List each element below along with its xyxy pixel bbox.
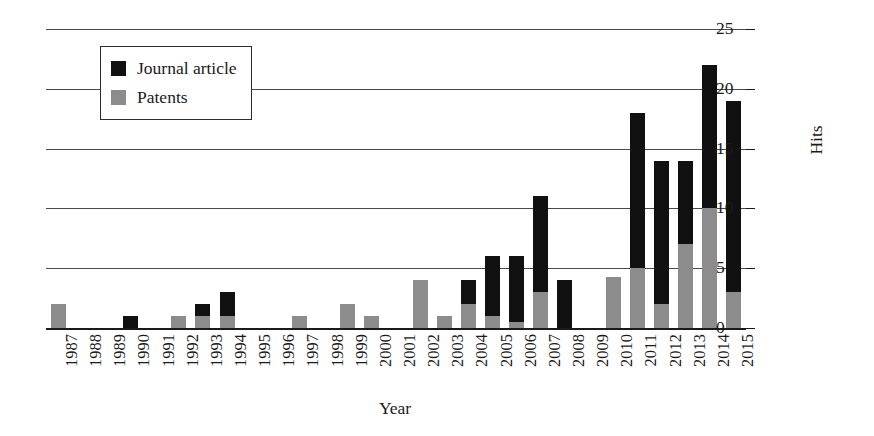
bar-segment-patents-1999 xyxy=(340,304,355,328)
bar-group-1996 xyxy=(268,29,283,328)
x-tick-label-2008: 2008 xyxy=(571,334,588,367)
x-tick-label-1989: 1989 xyxy=(112,334,129,367)
bar-group-2002 xyxy=(413,29,428,328)
y-tick-mark-15 xyxy=(746,149,755,150)
bar-segment-journal-article-1994 xyxy=(220,292,235,316)
y-tick-label-25: 25 xyxy=(716,20,734,38)
bar-segment-patents-2000 xyxy=(364,316,379,328)
bar-segment-patents-2004 xyxy=(461,304,476,328)
x-tick-label-2013: 2013 xyxy=(692,334,709,367)
x-tick-label-1987: 1987 xyxy=(64,334,81,367)
x-axis-tick-labels: 1987198819891990199119921993199419951996… xyxy=(46,328,746,390)
legend-label-patents: Patents xyxy=(137,89,188,107)
bar-segment-journal-article-2005 xyxy=(485,256,500,316)
x-tick-label-2003: 2003 xyxy=(450,334,467,367)
x-tick-label-2002: 2002 xyxy=(426,334,443,367)
x-tick-label-2010: 2010 xyxy=(619,334,636,367)
bar-segment-patents-2012 xyxy=(654,304,669,328)
bar-group-2000 xyxy=(364,29,379,328)
bar-group-2015 xyxy=(726,29,741,328)
bar-group-2003 xyxy=(437,29,452,328)
bar-segment-patents-2007 xyxy=(533,292,548,328)
legend-item-journal-article: Journal article xyxy=(111,54,237,83)
x-tick-label-1991: 1991 xyxy=(161,334,178,367)
legend-label-journal-article: Journal article xyxy=(137,60,237,78)
bar-group-2009 xyxy=(582,29,597,328)
x-tick-label-1998: 1998 xyxy=(330,334,347,367)
bar-segment-patents-1993 xyxy=(195,316,210,328)
y-tick-label-15: 15 xyxy=(716,140,734,158)
x-tick-label-1999: 1999 xyxy=(354,334,371,367)
bar-segment-patents-2015 xyxy=(726,292,741,328)
bar-group-1988 xyxy=(75,29,90,328)
y-tick-mark-0 xyxy=(746,328,755,329)
bar-group-2007 xyxy=(533,29,548,328)
bar-group-1998 xyxy=(316,29,331,328)
bar-group-2010 xyxy=(606,29,621,328)
x-tick-label-1988: 1988 xyxy=(88,334,105,367)
x-tick-label-1990: 1990 xyxy=(136,334,153,367)
bar-group-2012 xyxy=(654,29,669,328)
y-tick-mark-10 xyxy=(746,208,755,209)
bar-group-1997 xyxy=(292,29,307,328)
bar-segment-journal-article-2015 xyxy=(726,101,741,292)
y-tick-label-20: 20 xyxy=(716,80,734,98)
bar-segment-patents-2011 xyxy=(630,268,645,328)
y-tick-label-5: 5 xyxy=(716,259,725,277)
x-tick-label-1994: 1994 xyxy=(233,334,250,367)
x-tick-label-1995: 1995 xyxy=(257,334,274,367)
bar-segment-journal-article-1990 xyxy=(123,316,138,328)
x-tick-label-1996: 1996 xyxy=(281,334,298,367)
x-tick-label-2011: 2011 xyxy=(643,334,660,366)
bar-segment-patents-1997 xyxy=(292,316,307,328)
bar-segment-journal-article-2008 xyxy=(557,280,572,328)
chart-legend: Journal article Patents xyxy=(100,46,252,120)
x-tick-label-2005: 2005 xyxy=(499,334,516,367)
x-tick-label-2015: 2015 xyxy=(740,334,757,367)
bar-group-2005 xyxy=(485,29,500,328)
bar-group-2008 xyxy=(557,29,572,328)
bar-segment-journal-article-2012 xyxy=(654,161,669,305)
bar-segment-journal-article-2004 xyxy=(461,280,476,304)
bar-segment-patents-1994 xyxy=(220,316,235,328)
bar-group-2006 xyxy=(509,29,524,328)
legend-item-patents: Patents xyxy=(111,83,237,112)
x-tick-label-2004: 2004 xyxy=(474,334,491,367)
bar-segment-journal-article-2007 xyxy=(533,196,548,292)
x-tick-label-2000: 2000 xyxy=(378,334,395,367)
x-tick-label-2007: 2007 xyxy=(547,334,564,367)
x-tick-label-1997: 1997 xyxy=(305,334,322,367)
bar-segment-patents-2002 xyxy=(413,280,428,328)
bar-group-1987 xyxy=(51,29,66,328)
y-tick-label-10: 10 xyxy=(716,200,734,218)
bar-segment-patents-2010 xyxy=(606,277,621,328)
hits-per-year-stacked-bar-chart: 0510152025 19871988198919901991199219931… xyxy=(0,0,874,436)
bar-segment-journal-article-1993 xyxy=(195,304,210,316)
y-tick-mark-5 xyxy=(746,268,755,269)
bar-segment-journal-article-2013 xyxy=(678,161,693,245)
x-tick-label-2009: 2009 xyxy=(595,334,612,367)
bar-group-2004 xyxy=(461,29,476,328)
bar-segment-journal-article-2006 xyxy=(509,256,524,322)
y-axis-title: Hits xyxy=(806,125,827,154)
bar-group-2014 xyxy=(702,29,717,328)
legend-swatch-patents-icon xyxy=(111,90,126,105)
x-tick-label-2001: 2001 xyxy=(402,334,419,367)
bar-group-2001 xyxy=(389,29,404,328)
legend-swatch-journal-article-icon xyxy=(111,61,126,76)
x-axis-title: Year xyxy=(0,398,790,419)
y-tick-mark-20 xyxy=(746,89,755,90)
bar-segment-patents-1987 xyxy=(51,304,66,328)
bar-segment-patents-2003 xyxy=(437,316,452,328)
y-tick-mark-25 xyxy=(746,29,755,30)
bar-segment-patents-2013 xyxy=(678,244,693,328)
x-tick-label-2014: 2014 xyxy=(716,334,733,367)
bar-group-2013 xyxy=(678,29,693,328)
x-tick-label-1992: 1992 xyxy=(185,334,202,367)
bar-segment-journal-article-2011 xyxy=(630,113,645,268)
bar-segment-patents-2005 xyxy=(485,316,500,328)
x-tick-label-1993: 1993 xyxy=(209,334,226,367)
x-tick-label-2012: 2012 xyxy=(668,334,685,367)
bar-segment-patents-1992 xyxy=(171,316,186,328)
bar-group-2011 xyxy=(630,29,645,328)
